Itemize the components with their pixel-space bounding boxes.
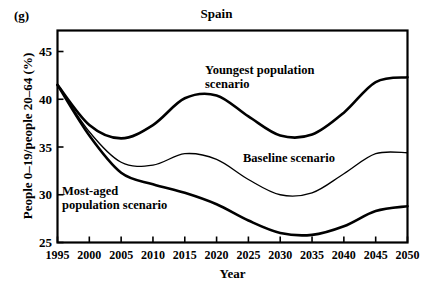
annotation-youngest-population-scenario: Youngest population scenario [205,64,314,91]
series-line-2 [58,85,408,235]
y-tick-label-45: 45 [26,45,52,58]
annotation-baseline-scenario: Baseline scenario [243,152,335,166]
y-tick-label-35: 35 [26,141,52,154]
figure-panel-g: (g) Spain People 0–19/people 20–64 (%) Y… [0,0,433,289]
plot-area [0,0,433,289]
x-tick-label-2050: 2050 [388,249,428,261]
annotation-most-aged-population-scenario: Most-aged population scenario [62,185,167,212]
y-tick-label-30: 30 [26,188,52,201]
y-tick-label-40: 40 [26,93,52,106]
